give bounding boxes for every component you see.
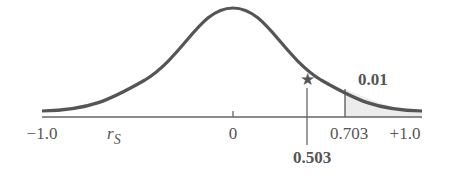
rejection-region	[345, 89, 422, 117]
test-statistic-label: 0.503	[293, 148, 331, 167]
tick-label-critical: 0.703	[330, 124, 368, 143]
tick-label-min: −1.0	[27, 124, 58, 143]
axis-variable-subscript: S	[114, 132, 121, 147]
tail-area-label: 0.01	[358, 70, 388, 89]
axis-variable-label: rS	[107, 124, 121, 147]
chart: ★ 0.01 −1.0 rS 0 0.703 +1.0 0.503	[0, 0, 457, 179]
distribution-curve	[42, 8, 422, 111]
tick-label-max: +1.0	[390, 124, 421, 143]
star-marker: ★	[300, 70, 315, 89]
tick-label-zero: 0	[229, 124, 238, 143]
